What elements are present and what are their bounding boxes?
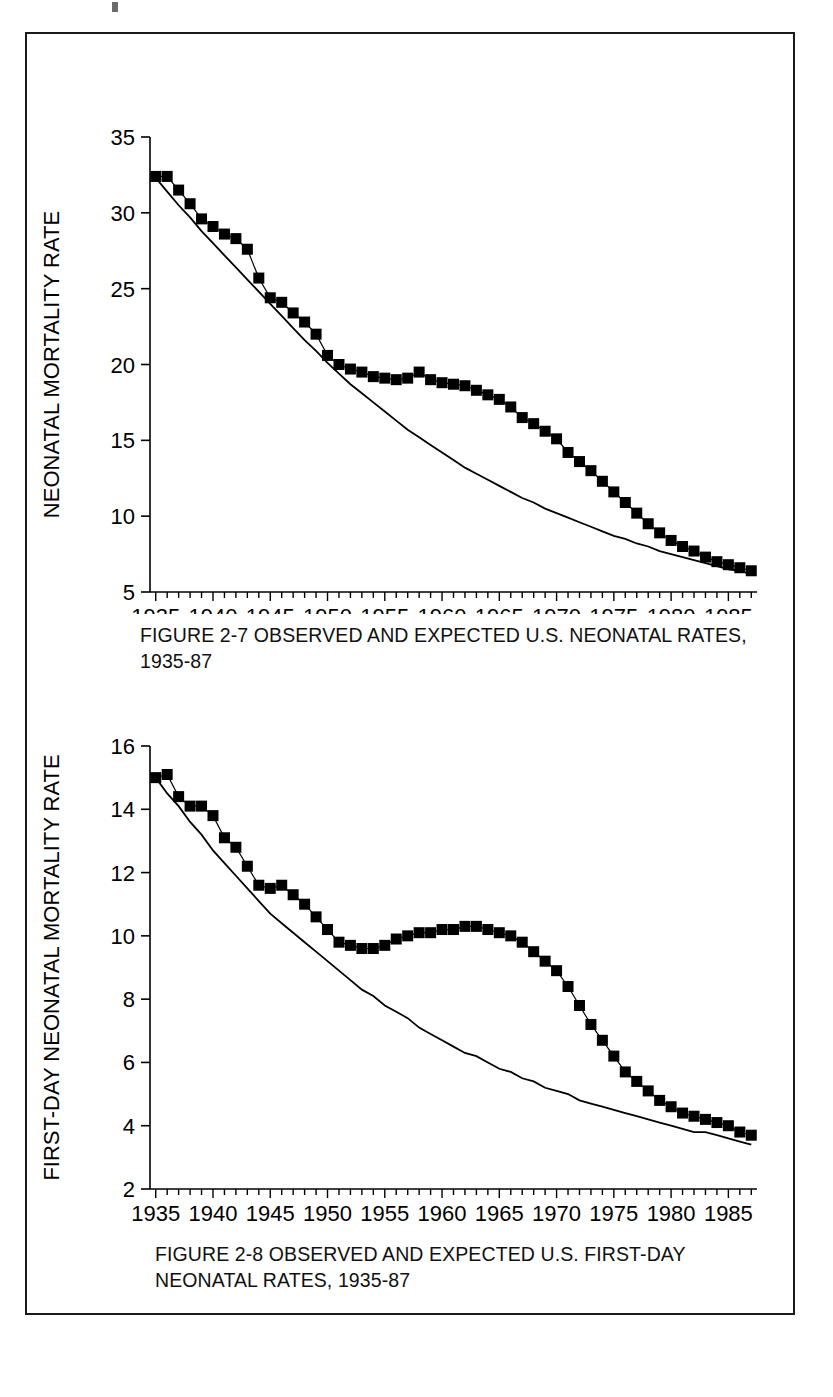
y-tick-label: 10 [111, 924, 135, 949]
data-point-marker [620, 1066, 631, 1077]
data-point-marker [333, 937, 344, 948]
figure-2-8-caption: FIGURE 2-8 OBSERVED AND EXPECTED U.S. FI… [155, 1241, 775, 1293]
data-point-marker [677, 541, 688, 552]
figure-2-8-block: 2468101214161935194019451950195519601965… [27, 669, 797, 1289]
data-point-marker [643, 518, 654, 529]
data-point-marker [494, 927, 505, 938]
data-point-marker [608, 486, 619, 497]
data-point-marker [311, 911, 322, 922]
data-point-marker [414, 367, 425, 378]
data-point-marker [517, 412, 528, 423]
data-point-marker [551, 965, 562, 976]
data-point-marker [242, 244, 253, 255]
data-point-marker [746, 1130, 757, 1141]
data-point-marker [563, 447, 574, 458]
x-tick-label: 1935 [131, 1201, 180, 1226]
data-point-marker [196, 213, 207, 224]
data-point-marker [162, 769, 173, 780]
x-tick-label: 1960 [418, 1201, 467, 1226]
data-point-marker [391, 934, 402, 945]
y-tick-label: 2 [123, 1177, 135, 1202]
data-point-marker [333, 359, 344, 370]
data-point-marker [322, 924, 333, 935]
data-point-marker [265, 883, 276, 894]
data-point-marker [253, 880, 264, 891]
page-border-frame: 5101520253035193519401945195019551960196… [25, 32, 795, 1315]
data-point-marker [563, 981, 574, 992]
data-point-marker [230, 233, 241, 244]
x-tick-label: 1970 [532, 1201, 581, 1226]
neonatal-mortality-chart: 5101520253035193519401945195019551960196… [27, 54, 797, 614]
data-point-marker [459, 921, 470, 932]
data-point-marker [677, 1108, 688, 1119]
data-point-marker [437, 377, 448, 388]
data-point-marker [746, 565, 757, 576]
data-point-marker [379, 373, 390, 384]
data-point-marker [517, 937, 528, 948]
data-point-marker [540, 956, 551, 967]
data-point-marker [242, 861, 253, 872]
data-point-marker [437, 924, 448, 935]
first-day-neonatal-mortality-chart: 2468101214161935194019451950195519601965… [27, 669, 797, 1229]
y-tick-label: 20 [111, 353, 135, 378]
y-tick-label: 15 [111, 428, 135, 453]
data-point-marker [620, 497, 631, 508]
x-tick-label: 1940 [189, 604, 238, 614]
data-point-marker [482, 924, 493, 935]
data-point-marker [219, 832, 230, 843]
y-tick-label: 12 [111, 861, 135, 886]
data-point-marker [414, 927, 425, 938]
data-point-marker [654, 1095, 665, 1106]
data-point-marker [700, 1114, 711, 1125]
x-tick-label: 1950 [303, 1201, 352, 1226]
x-tick-label: 1980 [647, 1201, 696, 1226]
series-line-expected [156, 778, 752, 1145]
series-line-observed [156, 774, 752, 1135]
data-point-marker [540, 426, 551, 437]
data-point-marker [734, 1127, 745, 1138]
data-point-marker [528, 418, 539, 429]
scan-artifact [112, 2, 118, 12]
data-point-marker [689, 546, 700, 557]
x-tick-label: 1980 [647, 604, 696, 614]
data-point-marker [299, 317, 310, 328]
data-point-marker [700, 552, 711, 563]
figure-2-7-caption: FIGURE 2-7 OBSERVED AND EXPECTED U.S. NE… [140, 622, 780, 674]
data-point-marker [276, 297, 287, 308]
data-point-marker [471, 385, 482, 396]
data-point-marker [666, 1101, 677, 1112]
x-tick-label: 1965 [475, 604, 524, 614]
x-tick-label: 1985 [704, 604, 753, 614]
data-point-marker [448, 379, 459, 390]
y-axis-title: NEONATAL MORTALITY RATE [39, 211, 64, 518]
data-point-marker [162, 171, 173, 182]
y-tick-label: 4 [123, 1114, 135, 1139]
data-point-marker [585, 1019, 596, 1030]
data-point-marker [185, 801, 196, 812]
series-line-expected [156, 178, 752, 574]
series-line-observed [156, 176, 752, 570]
data-point-marker [597, 476, 608, 487]
data-point-marker [173, 185, 184, 196]
data-point-marker [230, 842, 241, 853]
data-point-marker [631, 1076, 642, 1087]
data-point-marker [299, 899, 310, 910]
y-tick-label: 14 [111, 797, 135, 822]
y-tick-label: 8 [123, 987, 135, 1012]
y-tick-label: 30 [111, 201, 135, 226]
x-tick-label: 1975 [589, 1201, 638, 1226]
y-tick-label: 16 [111, 734, 135, 759]
data-point-marker [402, 373, 413, 384]
data-point-marker [253, 273, 264, 284]
data-point-marker [173, 791, 184, 802]
data-point-marker [276, 880, 287, 891]
data-point-marker [196, 801, 207, 812]
data-point-marker [185, 198, 196, 209]
data-point-marker [356, 943, 367, 954]
data-point-marker [666, 535, 677, 546]
y-tick-label: 25 [111, 277, 135, 302]
x-tick-label: 1940 [189, 1201, 238, 1226]
data-point-marker [585, 465, 596, 476]
data-point-marker [265, 292, 276, 303]
data-point-marker [219, 229, 230, 240]
